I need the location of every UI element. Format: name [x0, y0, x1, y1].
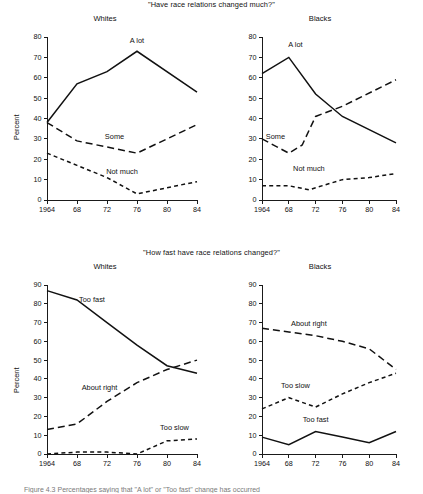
series-label: Some — [266, 132, 285, 141]
series-label: A lot — [288, 40, 302, 49]
series-label: About right — [291, 319, 327, 328]
series-line — [262, 174, 396, 190]
series-line — [262, 431, 396, 444]
y-tick-label: 70 — [249, 53, 257, 62]
y-tick-label: 20 — [249, 155, 257, 164]
series-label: Too slow — [281, 381, 310, 390]
chart-blacks-how-fast: 010203040506070809019646872768084About r… — [0, 248, 423, 488]
x-tick-label: 84 — [392, 205, 400, 214]
y-tick-label: 40 — [249, 374, 257, 383]
y-tick-label: 0 — [253, 195, 257, 204]
x-tick-label: 68 — [285, 205, 293, 214]
x-tick-label: 72 — [312, 459, 320, 468]
panel-group-changed-much: "Have race relations changed much?" Whit… — [0, 0, 423, 240]
y-tick-label: 40 — [249, 114, 257, 123]
series-line — [262, 328, 396, 369]
y-tick-label: 50 — [249, 94, 257, 103]
x-tick-label: 80 — [365, 459, 373, 468]
x-tick-label: 1964 — [254, 459, 270, 468]
x-tick-label: 68 — [285, 459, 293, 468]
y-tick-label: 50 — [249, 356, 257, 365]
y-tick-label: 70 — [249, 318, 257, 327]
y-tick-label: 30 — [249, 393, 257, 402]
y-tick-label: 30 — [249, 134, 257, 143]
y-tick-label: 20 — [249, 412, 257, 421]
y-tick-label: 0 — [253, 449, 257, 458]
x-tick-label: 76 — [338, 205, 346, 214]
y-tick-label: 10 — [249, 175, 257, 184]
panel-group-how-fast: "How fast have race relations changed?" … — [0, 248, 423, 488]
y-tick-label: 60 — [249, 73, 257, 82]
series-line — [262, 373, 396, 409]
series-line — [262, 80, 396, 153]
x-tick-label: 80 — [365, 205, 373, 214]
figure-caption: Figure 4.3 Percentages saying that "A lo… — [24, 486, 419, 493]
chart-blacks-changed-much: 0102030405060708019646872768084A lotSome… — [0, 0, 423, 240]
y-tick-label: 60 — [249, 337, 257, 346]
series-label: Too fast — [303, 415, 329, 424]
y-tick-label: 10 — [249, 431, 257, 440]
x-tick-label: 84 — [392, 459, 400, 468]
figure-race-relations: "Have race relations changed much?" Whit… — [0, 0, 423, 494]
x-tick-label: 76 — [338, 459, 346, 468]
series-line — [262, 57, 396, 143]
y-tick-label: 80 — [249, 299, 257, 308]
x-tick-label: 72 — [312, 205, 320, 214]
y-tick-label: 90 — [249, 280, 257, 289]
y-tick-label: 80 — [249, 32, 257, 41]
series-label: Not much — [293, 164, 325, 173]
x-tick-label: 1964 — [254, 205, 270, 214]
